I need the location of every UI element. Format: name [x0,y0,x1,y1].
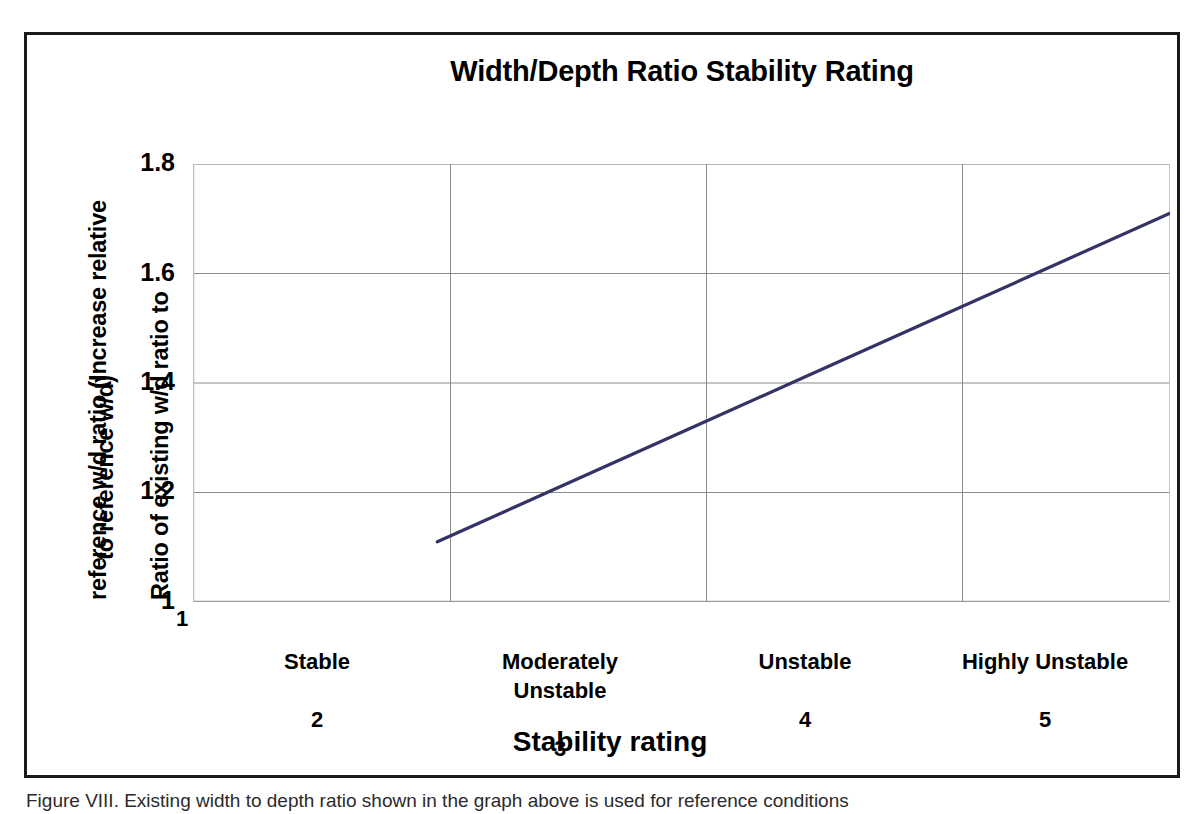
x-category-stable: Stable 2 [222,618,412,763]
chart-title-text: Width/Depth Ratio Stability Rating [450,55,913,87]
chart-title: Width/Depth Ratio Stability Rating [27,55,1177,88]
x-category-moderately-unstable: Moderately Unstable 3 [465,618,655,792]
x-category-label-4: Unstable [710,647,900,676]
y-tick-label-1.8: 1.8 [105,150,175,175]
figure-caption: Figure VIII. Existing width to depth rat… [26,788,1176,814]
y-axis-title-line-3: to reference w/d) [92,375,119,560]
x-category-number-2: 2 [222,705,412,734]
y-axis-title-line-2: Ratio of existing w/d ratio to [147,291,174,600]
x-category-label-2: Stable [222,647,412,676]
y-tick-label-1.0: 1 [105,588,175,613]
x-axis-title: Stability rating [400,726,820,758]
x-category-highly-unstable: Highly Unstable 5 [930,618,1160,763]
x-category-number-5: 5 [930,705,1160,734]
x-category-label-5: Highly Unstable [930,647,1160,676]
x-tick-label-origin: 1 [176,606,188,632]
plot-svg [193,164,1170,602]
x-category-label-3: Moderately Unstable [465,647,655,705]
plot-area [193,164,1170,602]
y-tick-label-1.6: 1.6 [105,260,175,285]
